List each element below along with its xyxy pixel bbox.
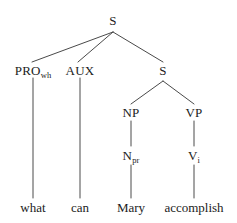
- leaf-mary: Mary: [117, 201, 145, 214]
- leaf-accomplish: accomplish: [164, 201, 223, 214]
- node-v-i: Vi: [188, 149, 200, 162]
- node-n-pr-subscript: pr: [132, 154, 139, 164]
- node-np-label: NP: [122, 105, 139, 120]
- edge-root-s-to-embedded-s: [113, 32, 163, 62]
- node-aux: AUX: [66, 64, 95, 77]
- node-aux-label: AUX: [66, 63, 95, 78]
- edge-root-s-to-aux: [78, 32, 113, 62]
- node-n-pr: Npr: [123, 149, 140, 162]
- edge-root-s-to-pro-wh: [32, 32, 113, 62]
- syntax-tree-figure: S PROwh AUX S NP VP Npr Vi what can Mary…: [0, 0, 237, 223]
- node-embedded-s-label: S: [159, 63, 166, 78]
- node-np: NP: [122, 106, 139, 119]
- node-root-s: S: [109, 14, 116, 27]
- node-v-i-subscript: i: [198, 154, 200, 164]
- edge-embedded-s-to-np: [131, 81, 163, 104]
- node-embedded-s: S: [159, 64, 166, 77]
- node-pro-wh-subscript: wh: [41, 69, 52, 79]
- leaf-can: can: [71, 201, 89, 214]
- node-root-s-label: S: [109, 13, 116, 28]
- node-n-pr-base: N: [123, 148, 133, 163]
- edge-embedded-s-to-vp: [163, 81, 194, 104]
- node-pro-wh: PROwh: [15, 64, 51, 77]
- node-pro-wh-base: PRO: [15, 63, 41, 78]
- node-vp: VP: [185, 106, 202, 119]
- node-v-i-base: V: [188, 148, 198, 163]
- leaf-what: what: [20, 201, 45, 214]
- node-vp-label: VP: [185, 105, 202, 120]
